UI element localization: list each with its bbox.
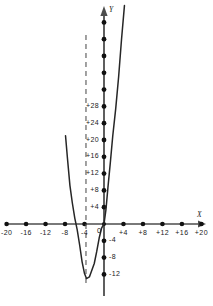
x-tick-label: -12: [40, 229, 51, 236]
x-tick-dot: [4, 222, 9, 227]
y-tick-dot: [102, 171, 107, 176]
x-tick-label: +4: [119, 229, 128, 236]
y-tick-label: -4: [109, 236, 116, 243]
origin-label: 0: [97, 226, 101, 235]
y-tick-dot: [102, 255, 107, 260]
y-tick-label: +24: [86, 119, 99, 126]
x-tick-label: +20: [195, 229, 208, 236]
x-tick-label: +16: [175, 229, 188, 236]
y-tick-label: +16: [86, 152, 99, 159]
x-tick-dot: [199, 222, 204, 227]
x-tick-dot: [63, 222, 68, 227]
x-tick-dot: [121, 222, 126, 227]
y-tick-dot: [102, 238, 107, 243]
x-tick-dot: [43, 222, 48, 227]
parabola-graph-figure: -20-16-12-8-40+4+8+12+16+20-12-8-4+4+8+1…: [0, 0, 213, 306]
x-tick-dot: [180, 222, 185, 227]
x-tick-dot: [24, 222, 29, 227]
y-tick-label: +4: [90, 203, 99, 210]
y-tick-label: +20: [86, 136, 99, 143]
y-tick-dot: [102, 154, 107, 159]
y-tick-dot-unlabeled: [102, 54, 107, 59]
y-tick-dot-unlabeled: [102, 20, 107, 25]
y-axis-arrowhead: [100, 6, 107, 16]
x-tick-label: -16: [20, 229, 31, 236]
y-tick-dot: [102, 138, 107, 143]
graph-canvas: [0, 0, 213, 306]
x-axis-label: X: [197, 210, 202, 219]
y-tick-label: -8: [109, 253, 116, 260]
y-tick-label: +28: [86, 102, 99, 109]
y-tick-label: +12: [86, 169, 99, 176]
x-tick-label: -8: [62, 229, 69, 236]
y-axis-label: Y: [109, 5, 113, 14]
x-tick-label: +12: [156, 229, 169, 236]
x-tick-label: -20: [1, 229, 12, 236]
y-tick-label: -12: [109, 270, 120, 277]
x-tick-label: +8: [139, 229, 148, 236]
y-tick-dot: [102, 121, 107, 126]
x-tick-dot: [160, 222, 165, 227]
y-tick-dot: [102, 272, 107, 277]
x-tick-dot: [141, 222, 146, 227]
x-tick-label: -4: [81, 229, 88, 236]
y-tick-dot: [102, 188, 107, 193]
y-tick-dot-unlabeled: [102, 70, 107, 75]
y-tick-label: +8: [90, 186, 99, 193]
y-tick-dot-unlabeled: [102, 37, 107, 42]
y-tick-dot-unlabeled: [102, 87, 107, 92]
y-tick-dot: [102, 104, 107, 109]
